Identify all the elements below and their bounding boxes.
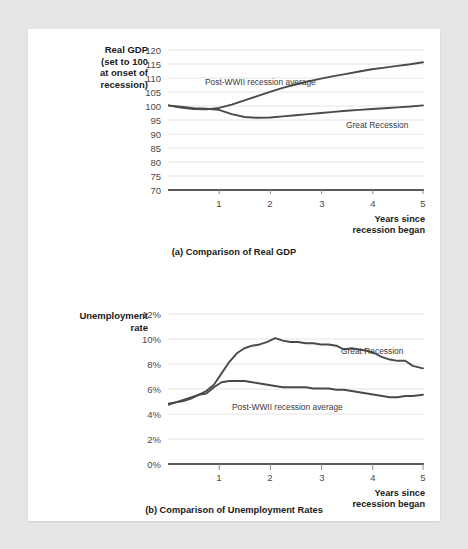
unemployment-plot-area [168, 313, 424, 473]
unemployment-label-post-wwii: Post-WWII recession average [232, 402, 343, 412]
gdp-gridlines [168, 50, 424, 176]
unemp-ytick-8: 8% [127, 360, 161, 370]
gdp-series-great-recession-line [168, 105, 423, 117]
chart-unemployment: Unemployment rate 12% 10% 8% 6% 4% 2% 0% [28, 277, 440, 521]
figure-frame: Real GDP (set to 100 at onset of recessi… [0, 0, 468, 549]
unemployment-caption: (b) Comparison of Unemployment Rates [28, 505, 440, 515]
gdp-label-post-wwii: Post-WWII recession average [205, 77, 316, 87]
unemp-ytick-6: 6% [127, 385, 161, 395]
gdp-ytick-100: 100 [127, 102, 161, 112]
chart-real-gdp: Real GDP (set to 100 at onset of recessi… [28, 29, 440, 277]
unemp-x-axis-ticks [219, 464, 423, 470]
gdp-ytick-115: 115 [127, 60, 161, 70]
figure-panel: Real GDP (set to 100 at onset of recessi… [28, 29, 440, 521]
unemp-ytick-10: 10% [127, 335, 161, 345]
gdp-xtick-3: 3 [314, 199, 330, 209]
gdp-caption: (a) Comparison of Real GDP [28, 247, 440, 257]
gdp-label-great-recession: Great Recession [346, 120, 408, 130]
gdp-ytick-120: 120 [127, 46, 161, 56]
unemp-ytick-4: 4% [127, 410, 161, 420]
gdp-ytick-90: 90 [127, 130, 161, 140]
unemp-ytick-2: 2% [127, 435, 161, 445]
unemp-xtick-2: 2 [262, 473, 278, 483]
gdp-ytick-75: 75 [127, 172, 161, 182]
gdp-ytick-80: 80 [127, 158, 161, 168]
gdp-ytick-95: 95 [127, 116, 161, 126]
gdp-ytick-85: 85 [127, 144, 161, 154]
unemp-xtick-3: 3 [314, 473, 330, 483]
gdp-xtick-2: 2 [262, 199, 278, 209]
gdp-ytick-105: 105 [127, 88, 161, 98]
gdp-ytick-110: 110 [127, 74, 161, 84]
unemp-xtick-5: 5 [415, 473, 431, 483]
unemp-ytick-12: 12% [127, 310, 161, 320]
gdp-ytick-70: 70 [127, 186, 161, 196]
unemp-gridlines [168, 314, 424, 439]
gdp-xtick-4: 4 [365, 199, 381, 209]
unemp-xtick-1: 1 [211, 473, 227, 483]
gdp-x-axis-label: Years since recession began [315, 214, 425, 237]
gdp-xtick-1: 1 [211, 199, 227, 209]
unemp-xtick-4: 4 [365, 473, 381, 483]
unemp-ytick-0: 0% [127, 460, 161, 470]
unemployment-label-great-recession: Great Recession [341, 346, 403, 356]
gdp-xtick-5: 5 [415, 199, 431, 209]
